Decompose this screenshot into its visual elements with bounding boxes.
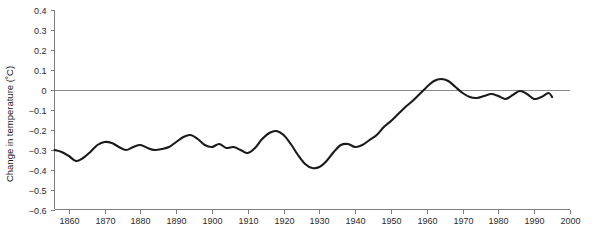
x-tick-label: 1980	[488, 216, 508, 226]
x-tick-label: 1870	[95, 216, 115, 226]
x-tick-label: 1930	[309, 216, 329, 226]
chart-plot-area: 0.40.30.20.10−0.1−0.2−0.3−0.4−0.5−0.6 18…	[0, 0, 592, 237]
temperature-series-line	[55, 79, 553, 168]
x-tick-label: 1940	[345, 216, 365, 226]
y-tick-label: −0.5	[29, 186, 47, 196]
x-tick-label: 1920	[274, 216, 294, 226]
y-tick-label: −0.1	[29, 106, 47, 116]
y-tick-label: 0.3	[34, 26, 47, 36]
x-tick-label: 1890	[166, 216, 186, 226]
x-tick-label: 1970	[453, 216, 473, 226]
y-tick-label: 0.4	[34, 6, 47, 16]
y-tick-label: −0.3	[29, 146, 47, 156]
y-tick-label: −0.6	[29, 206, 47, 216]
x-axis-tick-marks	[70, 210, 571, 214]
x-tick-label: 1910	[238, 216, 258, 226]
y-tick-label: −0.2	[29, 126, 47, 136]
x-tick-label: 1860	[59, 216, 79, 226]
y-tick-label: 0	[41, 86, 46, 96]
temperature-anomaly-chart: 0.40.30.20.10−0.1−0.2−0.3−0.4−0.5−0.6 18…	[0, 0, 592, 237]
y-axis-title: Change in temperature (˚C)	[4, 66, 15, 182]
x-tick-label: 1960	[417, 216, 437, 226]
y-tick-label: −0.4	[29, 166, 47, 176]
x-tick-label: 1990	[524, 216, 544, 226]
x-tick-label: 1900	[202, 216, 222, 226]
y-axis-tick-labels: 0.40.30.20.10−0.1−0.2−0.3−0.4−0.5−0.6	[29, 6, 47, 216]
x-tick-label: 1880	[130, 216, 150, 226]
y-tick-label: 0.2	[34, 46, 47, 56]
y-axis-tick-marks	[51, 11, 55, 211]
x-tick-label: 1950	[381, 216, 401, 226]
y-tick-label: 0.1	[34, 66, 47, 76]
x-tick-label: 2000	[560, 216, 580, 226]
x-axis-tick-labels: 1860187018801890190019101920193019401950…	[59, 216, 580, 226]
